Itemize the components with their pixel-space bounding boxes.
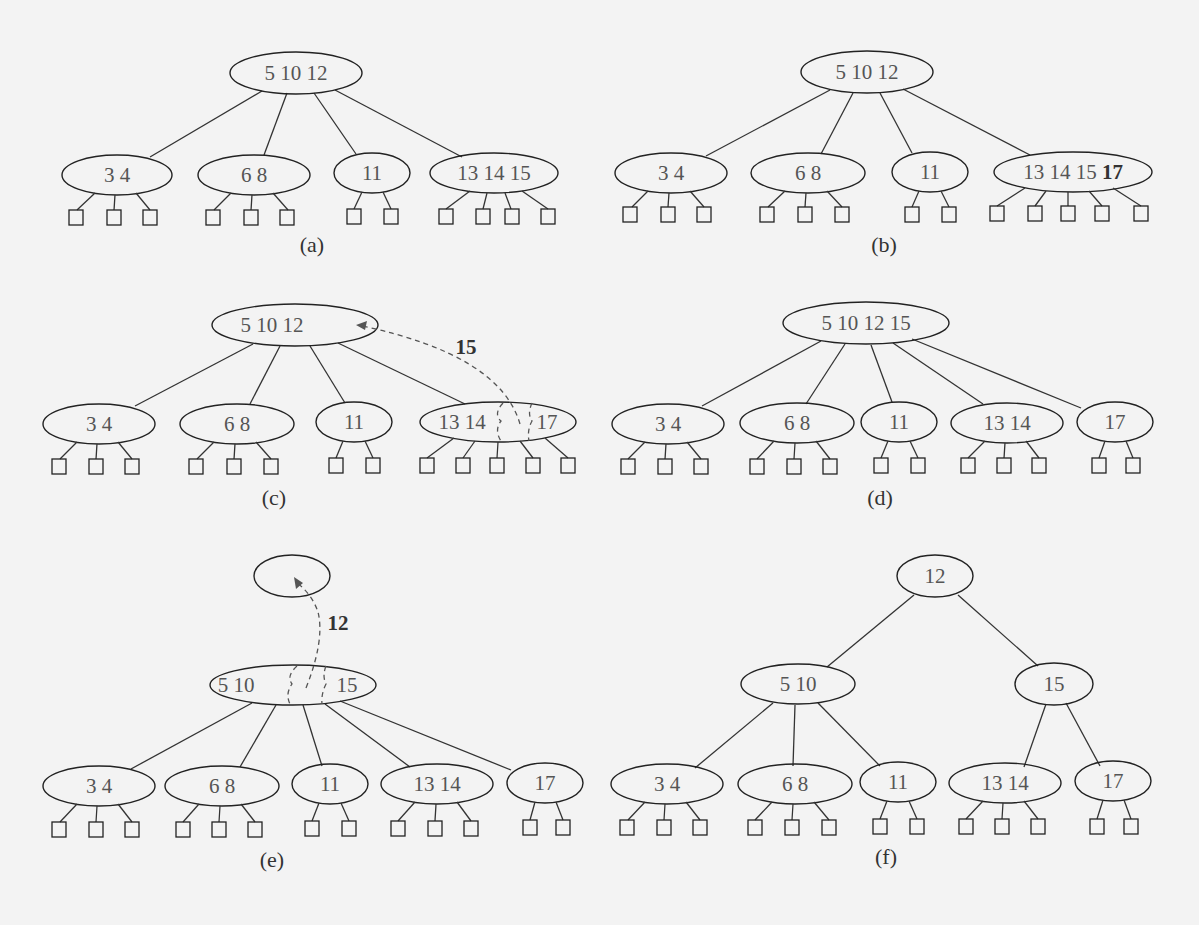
- arrow-head-icon: [356, 321, 367, 330]
- split-marker: [288, 666, 297, 704]
- btree-insertion-figure: 5 10 12 3 4 6 8 11 13 14 15 (a): [0, 0, 1199, 925]
- leaves: [620, 800, 1138, 835]
- node-keys: 17: [1103, 769, 1124, 793]
- new-root-node-empty: [254, 555, 330, 597]
- leaves: [52, 438, 575, 474]
- node-keys: 11: [920, 160, 940, 184]
- node-keys: 11: [344, 410, 364, 434]
- leaves: [69, 191, 555, 225]
- panel-label-a: (a): [300, 232, 324, 257]
- panel-d: 5 10 12 15 3 4 6 8 11 13 14 17 (d): [612, 302, 1153, 510]
- root-keys: 12: [925, 564, 946, 588]
- inserted-key-17: 17: [1102, 160, 1123, 184]
- node-keys: 15: [1044, 672, 1065, 696]
- node-keys: 13 14 15: [457, 161, 531, 185]
- node-keys: 3 4: [86, 774, 113, 798]
- node-keys: 17: [1105, 410, 1126, 434]
- panel-label-b: (b): [871, 232, 897, 257]
- node-keys: 3 4: [655, 412, 682, 436]
- panel-b: 5 10 12 3 4 6 8 11 13 14 15 17 (b): [615, 51, 1152, 257]
- node-keys: 3 4: [658, 161, 685, 185]
- panel-a: 5 10 12 3 4 6 8 11 13 14 15 (a): [62, 52, 558, 257]
- node-keys: 11: [888, 770, 908, 794]
- panel-label-d: (d): [867, 485, 893, 510]
- panel-f: 12 5 10 15 3 4 6 8 11 13 14 17: [611, 555, 1151, 869]
- node-keys: 6 8: [784, 411, 810, 435]
- node-keys: 11: [362, 161, 382, 185]
- panel-label-c: (c): [262, 485, 286, 510]
- node-keys: 5 10: [780, 672, 817, 696]
- node-keys: 17: [535, 771, 556, 795]
- promoted-key-label: 12: [328, 611, 349, 635]
- leaves: [621, 441, 1140, 474]
- root-keys: 5 10 12: [265, 61, 328, 85]
- node-keys: 11: [320, 772, 340, 796]
- node-keys: 3 4: [104, 163, 131, 187]
- panel-e: 12 5 10 15 3 4 6 8 11 13 14 17: [43, 555, 583, 872]
- split-marker: [322, 666, 326, 704]
- panel-label-f: (f): [875, 844, 897, 869]
- leaves: [623, 188, 1148, 222]
- node-keys: 11: [889, 410, 909, 434]
- node-keys-right: 17: [537, 410, 558, 434]
- leaves: [52, 802, 570, 837]
- root-keys: 5 10 12: [836, 60, 899, 84]
- node-keys: 13 14: [413, 772, 461, 796]
- node-keys-left: 5 10: [218, 673, 255, 697]
- node-keys: 6 8: [209, 774, 235, 798]
- root-keys: 5 10 12: [241, 313, 304, 337]
- panel-c: 5 10 12 3 4 6 8 11 13 14 17 15: [43, 304, 576, 510]
- node-keys: 13 14: [981, 771, 1029, 795]
- node-keys: 13 14: [983, 411, 1031, 435]
- node-keys-right: 15: [337, 673, 358, 697]
- node-keys: 13 14 15 17: [1023, 160, 1123, 184]
- node-keys: 3 4: [86, 412, 113, 436]
- node-keys: 3 4: [654, 772, 681, 796]
- root-keys: 5 10 12 15: [821, 311, 910, 335]
- promotion-arrow: [296, 582, 320, 688]
- node-keys: 6 8: [795, 161, 821, 185]
- split-marker: [528, 403, 532, 441]
- split-marker: [497, 403, 503, 441]
- node-keys-left: 13 14: [438, 410, 486, 434]
- panel-label-e: (e): [260, 847, 284, 872]
- node-keys: 6 8: [782, 772, 808, 796]
- node-keys: 6 8: [224, 412, 250, 436]
- node-keys: 6 8: [241, 163, 267, 187]
- promoted-key-label: 15: [456, 335, 477, 359]
